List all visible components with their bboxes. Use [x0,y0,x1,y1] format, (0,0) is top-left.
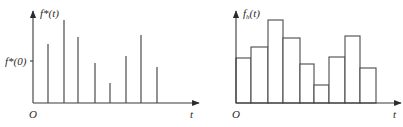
hold-step [268,20,283,103]
right-y-label: fh(t) [243,7,260,21]
right-panel: fh(t) O t [232,7,401,120]
f0-label: f*(0) [5,55,27,68]
hold-step [345,36,360,103]
right-x-label: t [393,108,397,120]
left-x-label: t [190,108,194,120]
hold-step [251,47,268,103]
left-origin-label: O [29,108,37,120]
hold-steps [236,20,376,103]
right-origin-label: O [232,108,240,120]
left-panel: f*(t) f*(0) O t [5,7,199,120]
hold-step [360,68,376,103]
hold-step [314,85,329,103]
left-y-label: f*(t) [40,7,59,20]
hold-step [236,58,251,103]
hold-step [329,57,345,103]
hold-step [283,38,300,103]
impulse-stems [48,20,157,103]
figure: f*(t) f*(0) O t fh(t) O t [0,0,403,127]
hold-step [300,64,314,103]
